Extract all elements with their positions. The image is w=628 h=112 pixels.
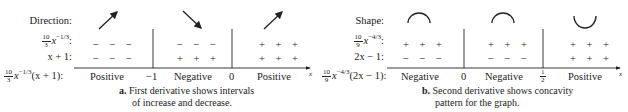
concave-down-arc-icon	[408, 13, 430, 23]
sign-cell: + + +	[403, 39, 446, 50]
result-cell: Negative	[485, 71, 523, 82]
panel-b-caption-line2: pattern for the graph.	[435, 97, 519, 109]
factor2-row-label: 2x − 1:	[354, 51, 384, 62]
factor1-row-label: 109x−4/3:	[354, 33, 385, 49]
result-cell: Negative	[401, 71, 439, 82]
critical-point-label: 0	[461, 71, 466, 82]
critical-point-half: 1 2	[540, 69, 546, 84]
product-row-label: 109x−4/3(2x − 1):	[322, 68, 386, 84]
sign-cell: + + +	[570, 39, 613, 50]
shape-row-label: Shape:	[355, 15, 384, 26]
panel-b-caption: b. Second derivative shows concavity	[422, 85, 573, 97]
fraction: 109	[322, 69, 331, 84]
sign-cell: − − −	[488, 53, 531, 64]
sign-cell: + + +	[488, 39, 531, 50]
result-cell: Positive	[568, 71, 602, 82]
sign-cell: + + +	[570, 53, 613, 64]
sign-cell: − − −	[403, 53, 446, 64]
concave-up-arc-icon	[574, 16, 596, 28]
concave-down-arc-icon	[492, 13, 514, 23]
fraction: 109	[354, 34, 363, 49]
axis-label: x	[619, 70, 622, 78]
